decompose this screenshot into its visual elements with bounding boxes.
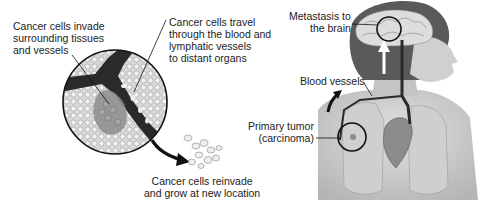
label-travel: Cancer cells travel through the blood an… — [169, 16, 271, 64]
label-primary-tumor: Primary tumor (carcinoma) — [248, 120, 314, 144]
label-line: through the blood and — [169, 28, 271, 40]
label-line: Blood vessels — [300, 75, 365, 87]
label-blood-vessels: Blood vessels — [300, 75, 365, 87]
label-metastasis: Metastasis to the brain — [289, 10, 351, 34]
label-line: Metastasis to — [289, 10, 351, 22]
label-reinvade: Cancer cells reinvade and grow at new lo… — [144, 175, 260, 199]
label-line: Primary tumor — [248, 120, 314, 132]
label-line: and grow at new location — [144, 187, 260, 199]
label-line: lymphatic vessels — [169, 40, 271, 52]
label-line: Cancer cells travel — [169, 16, 271, 28]
label-line: Cancer cells reinvade — [144, 175, 260, 187]
label-line: Cancer cells invade — [13, 20, 105, 32]
label-line: the brain — [289, 22, 351, 34]
travel-arrowhead — [176, 153, 190, 166]
label-line: (carcinoma) — [248, 132, 314, 144]
label-line: to distant organs — [169, 52, 271, 64]
label-line: and vessels — [13, 44, 105, 56]
reinvading-cells-cluster — [184, 135, 222, 169]
label-invade: Cancer cells invade surrounding tissues … — [13, 20, 105, 56]
label-line: surrounding tissues — [13, 32, 105, 44]
